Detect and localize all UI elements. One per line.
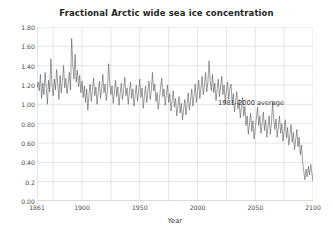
- y-tick-label: 0.2: [1, 178, 35, 185]
- x-tick-label: 2100: [305, 204, 321, 211]
- data-series-line: [37, 39, 313, 196]
- x-tick-label: 1950: [132, 204, 148, 211]
- y-tick-label: 1.40: [1, 62, 35, 69]
- plot-area: [37, 27, 313, 201]
- y-tick-label: 0.80: [1, 120, 35, 127]
- average-annotation: 1981–2000 average: [218, 99, 284, 107]
- chart-title: Fractional Arctic wide sea ice concentra…: [0, 8, 333, 18]
- axis-lines: [37, 27, 313, 201]
- chart-figure: Fractional Arctic wide sea ice concentra…: [0, 0, 333, 239]
- x-tick-label: 1900: [74, 204, 90, 211]
- y-tick-label: 1.60: [1, 43, 35, 50]
- x-tick-label: 1861: [29, 204, 45, 211]
- plot-svg: [37, 27, 313, 201]
- y-axis-tick-labels: 0.000.20.400.600.801.001.201.401.601.80: [0, 27, 35, 201]
- x-tick-label: 2050: [247, 204, 263, 211]
- y-tick-label: 0.40: [1, 159, 35, 166]
- y-tick-label: 1.20: [1, 82, 35, 89]
- gridlines: [37, 27, 313, 201]
- y-tick-label: 1.00: [1, 101, 35, 108]
- x-axis-title: Year: [37, 217, 313, 225]
- x-tick-label: 2000: [190, 204, 206, 211]
- y-tick-label: 1.80: [1, 24, 35, 31]
- y-tick-label: 0.60: [1, 140, 35, 147]
- x-axis-tick-labels: 186119001950200020502100: [37, 203, 313, 217]
